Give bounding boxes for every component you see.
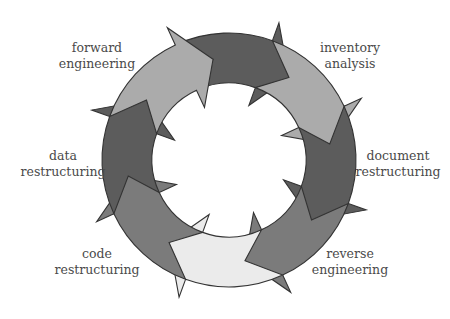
label-line: inventory <box>320 40 380 56</box>
label-line: forward <box>59 40 135 56</box>
label-code-restructuring: code restructuring <box>55 246 140 278</box>
label-line: restructuring <box>21 164 106 180</box>
label-line: engineering <box>312 262 388 278</box>
label-line: data <box>21 148 106 164</box>
label-document-restructuring: document restructuring <box>356 148 441 180</box>
label-line: analysis <box>320 56 380 72</box>
label-forward-engineering: forward engineering <box>59 40 135 72</box>
label-line: reverse <box>312 246 388 262</box>
label-line: engineering <box>59 56 135 72</box>
label-reverse-engineering: reverse engineering <box>312 246 388 278</box>
label-line: restructuring <box>55 262 140 278</box>
label-inventory-analysis: inventory analysis <box>320 40 380 72</box>
label-line: code <box>55 246 140 262</box>
label-data-restructuring: data restructuring <box>21 148 106 180</box>
label-line: document <box>356 148 441 164</box>
label-line: restructuring <box>356 164 441 180</box>
